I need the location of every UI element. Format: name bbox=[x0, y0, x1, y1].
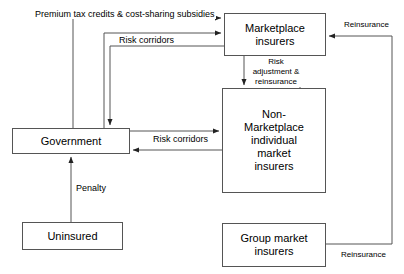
node-non-marketplace-insurers[interactable]: Non- Marketplace individual market insur… bbox=[222, 88, 326, 193]
edge-label-penalty: Penalty bbox=[75, 183, 107, 193]
node-uninsured[interactable]: Uninsured bbox=[22, 222, 123, 250]
edge-risk-corridors-to-marketplace bbox=[104, 33, 221, 128]
node-non-marketplace-insurers-label: Non- Marketplace individual market insur… bbox=[241, 108, 307, 173]
edge-label-risk-corridors-top: Risk corridors bbox=[118, 35, 175, 45]
node-government-label: Government bbox=[38, 135, 105, 148]
edge-label-risk-adjustment-reinsurance: Risk adjustment & reinsurance bbox=[248, 57, 304, 87]
node-marketplace-insurers-label: Marketplace insurers bbox=[242, 22, 308, 48]
node-group-market-insurers-label: Group market insurers bbox=[237, 232, 310, 258]
node-marketplace-insurers[interactable]: Marketplace insurers bbox=[224, 13, 326, 56]
flow-diagram: Marketplace insurers Non- Marketplace in… bbox=[0, 0, 404, 274]
edge-label-reinsurance-top: Reinsurance bbox=[343, 20, 390, 30]
node-government[interactable]: Government bbox=[12, 128, 130, 154]
edge-label-reinsurance-bottom: Reinsurance bbox=[340, 250, 387, 260]
edge-label-premium-tax-credits: Premium tax credits & cost-sharing subsi… bbox=[34, 9, 216, 19]
node-group-market-insurers[interactable]: Group market insurers bbox=[222, 223, 326, 267]
edge-label-risk-corridors-middle: Risk corridors bbox=[152, 134, 209, 144]
edge-risk-corridors-to-government bbox=[110, 46, 224, 125]
edge-reinsurance-right-loop bbox=[326, 36, 392, 244]
node-uninsured-label: Uninsured bbox=[44, 230, 100, 243]
